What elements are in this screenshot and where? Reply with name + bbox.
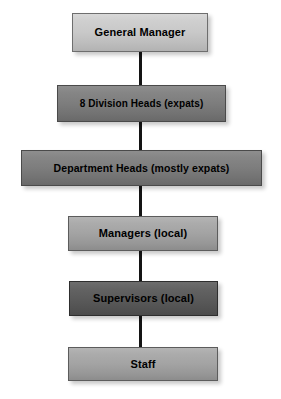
node-label-supervisors: Supervisors (local): [93, 293, 194, 304]
org-chart-diagram: General Manager 8 Division Heads (expats…: [0, 0, 281, 399]
node-general-manager[interactable]: General Manager: [72, 13, 208, 52]
node-label-general-manager: General Manager: [95, 27, 186, 38]
connector-managers-to-supervisors: [139, 251, 142, 281]
connector-department-to-managers: [139, 186, 142, 216]
node-label-staff: Staff: [131, 359, 156, 370]
node-department-heads[interactable]: Department Heads (mostly expats): [21, 150, 262, 186]
connector-supervisors-to-staff: [139, 316, 142, 347]
node-label-managers: Managers (local): [99, 228, 187, 239]
node-division-heads[interactable]: 8 Division Heads (expats): [57, 85, 226, 122]
node-managers[interactable]: Managers (local): [68, 216, 218, 251]
node-staff[interactable]: Staff: [68, 347, 218, 381]
connector-gm-to-division-heads: [139, 52, 142, 85]
connector-division-to-department: [139, 122, 142, 150]
node-label-department-heads: Department Heads (mostly expats): [54, 163, 230, 174]
node-supervisors[interactable]: Supervisors (local): [69, 281, 218, 316]
node-label-division-heads: 8 Division Heads (expats): [80, 99, 204, 109]
